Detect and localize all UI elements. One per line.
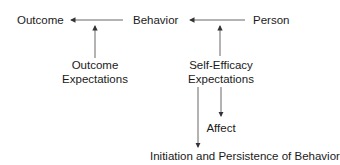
node-outcome: Outcome [17, 13, 64, 27]
node-self-efficacy-expectations: Self-Efficacy Expectations [188, 58, 254, 86]
node-self-efficacy-line2: Expectations [188, 72, 254, 86]
node-behavior: Behavior [133, 13, 178, 27]
node-initiation-persistence: Initiation and Persistence of Behavior [150, 149, 340, 163]
node-affect: Affect [206, 121, 235, 135]
node-person: Person [253, 13, 289, 27]
node-outcome-expectations-line1: Outcome [62, 58, 128, 72]
node-outcome-expectations-line2: Expectations [62, 72, 128, 86]
node-outcome-expectations: Outcome Expectations [62, 58, 128, 86]
node-self-efficacy-line1: Self-Efficacy [188, 58, 254, 72]
